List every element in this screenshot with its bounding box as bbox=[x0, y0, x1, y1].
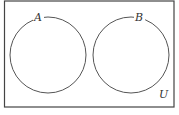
set-b-label: B bbox=[134, 11, 143, 24]
universe-label: U bbox=[159, 88, 169, 101]
set-a-label: A bbox=[33, 11, 42, 24]
venn-diagram: A B U bbox=[0, 0, 179, 115]
universe-rectangle bbox=[5, 1, 175, 107]
